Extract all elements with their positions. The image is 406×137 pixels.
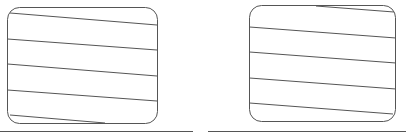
- right-box: [250, 6, 396, 122]
- slanted-line: [316, 6, 394, 12]
- slanted-line: [250, 27, 397, 38]
- right-panel: [208, 6, 406, 132]
- slanted-line: [250, 103, 394, 114]
- slanted-line: [250, 52, 397, 63]
- slanted-line: [10, 13, 157, 25]
- slanted-line: [10, 115, 105, 123]
- slanted-line: [8, 39, 158, 50]
- left-panel: [0, 8, 193, 132]
- slanted-line: [8, 90, 158, 101]
- slanted-line: [250, 78, 397, 89]
- slanted-line: [8, 64, 158, 76]
- diagram-canvas: [0, 0, 406, 137]
